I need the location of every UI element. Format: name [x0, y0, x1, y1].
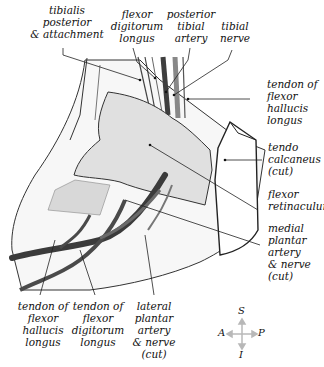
label-lateral-plantar-artery-nerve: lateral plantar artery & nerve (cut): [130, 300, 178, 360]
label-tendon-flexor-digitorum-longus-bottom: tendon of flexor digitorum longus: [70, 300, 126, 348]
label-flexor-retinaculum: flexor retinaculum: [268, 188, 324, 212]
label-posterior-tibial-artery: posterior tibial artery: [165, 8, 217, 44]
label-tibialis-posterior: tibialis posterior & attachment: [28, 4, 106, 40]
label-tibial-nerve: tibial nerve: [217, 20, 253, 44]
label-flexor-digitorum-longus: flexor digitorum longus: [108, 8, 166, 44]
compass-superior: S: [238, 305, 245, 316]
label-tendo-calcaneus: tendo calcaneus (cut): [268, 141, 324, 177]
compass-inferior: I: [239, 349, 243, 360]
ankle-anatomy-diagram: tibialis posterior & attachment flexor d…: [0, 0, 324, 367]
label-medial-plantar-artery-nerve: medial plantar artery & nerve (cut): [268, 222, 324, 282]
label-tendon-flexor-hallucis-longus-right: tendon of flexor hallucis longus: [267, 78, 324, 126]
orientation-compass-arrows: [227, 319, 257, 349]
compass-anterior: A: [218, 327, 225, 338]
label-tendon-flexor-hallucis-longus-bottom: tendon of flexor hallucis longus: [16, 300, 70, 348]
compass-posterior: P: [258, 327, 265, 338]
